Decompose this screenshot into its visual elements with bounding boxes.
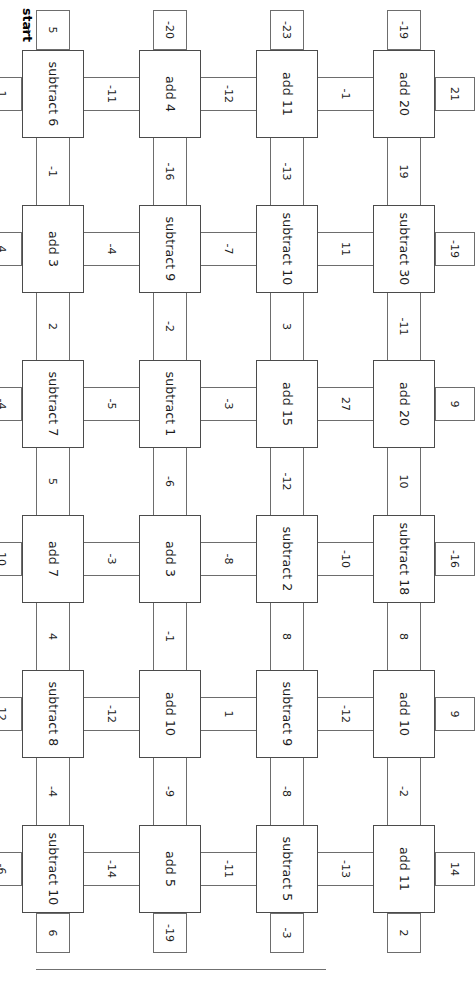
edge-value: -8 — [201, 542, 256, 576]
operation-node[interactable]: add 15 — [256, 360, 318, 448]
edge-value: 8 — [270, 603, 304, 670]
edge-value: -19 — [153, 913, 187, 953]
operation-node[interactable]: add 20 — [373, 360, 435, 448]
edge-value: -19 — [387, 10, 421, 50]
start-arrow-icon: → — [22, 24, 35, 33]
edge-value: -20 — [153, 10, 187, 50]
edge-value: -4 — [84, 232, 139, 266]
operation-node[interactable]: add 7 — [22, 515, 84, 603]
diagram-viewport: add 20add 11add 4subtract 6subtract 30su… — [0, 0, 476, 991]
edge-value: 1 — [201, 697, 256, 731]
edge-value: -6 — [153, 448, 187, 515]
operation-node[interactable]: add 11 — [373, 825, 435, 913]
edge-value: -2 — [387, 758, 421, 825]
operation-node[interactable]: subtract 8 — [22, 670, 84, 758]
edge-value: -11 — [201, 852, 256, 886]
edge-value: -3 — [84, 542, 139, 576]
edge-value: -1 — [36, 138, 70, 205]
operation-node[interactable]: add 3 — [139, 515, 201, 603]
operation-node[interactable]: subtract 9 — [139, 205, 201, 293]
edge-value: 21 — [435, 77, 475, 111]
edge-value: -12 — [201, 77, 256, 111]
edge-value: -12 — [318, 697, 373, 731]
edge-value: -4 — [36, 758, 70, 825]
edge-value: -10 — [318, 542, 373, 576]
edge-value: 11 — [318, 232, 373, 266]
edge-value: -11 — [84, 77, 139, 111]
operation-node[interactable]: subtract 10 — [256, 205, 318, 293]
edge-value: 4 — [36, 603, 70, 670]
edge-value: -5 — [84, 387, 139, 421]
edge-value: 19 — [387, 138, 421, 205]
footer-rule — [36, 969, 326, 970]
operation-node[interactable]: add 20 — [373, 50, 435, 138]
edge-value: -3 — [270, 913, 304, 953]
operation-node[interactable]: add 10 — [373, 670, 435, 758]
edge-value: -9 — [153, 758, 187, 825]
edge-value: 9 — [435, 697, 475, 731]
edge-value: -13 — [270, 138, 304, 205]
edge-value: -1 — [153, 603, 187, 670]
operation-node[interactable]: add 5 — [139, 825, 201, 913]
operation-node[interactable]: subtract 30 — [373, 205, 435, 293]
operation-node[interactable]: add 3 — [22, 205, 84, 293]
edge-value: 2 — [387, 913, 421, 953]
operation-node[interactable]: subtract 7 — [22, 360, 84, 448]
operation-node[interactable]: subtract 2 — [256, 515, 318, 603]
edge-value: -3 — [201, 387, 256, 421]
edge-value: -12 — [270, 448, 304, 515]
operation-node[interactable]: subtract 6 — [22, 50, 84, 138]
operation-node[interactable]: subtract 5 — [256, 825, 318, 913]
edge-value: 27 — [318, 387, 373, 421]
edge-value: 1 — [0, 77, 22, 111]
edge-value: -23 — [270, 10, 304, 50]
flowchart-canvas: add 20add 11add 4subtract 6subtract 30su… — [0, 0, 476, 991]
edge-value: 9 — [435, 387, 475, 421]
edge-value: -1 — [318, 77, 373, 111]
edge-value: -11 — [387, 293, 421, 360]
edge-value: 4 — [0, 232, 22, 266]
edge-value: 8 — [387, 603, 421, 670]
operation-node[interactable]: add 11 — [256, 50, 318, 138]
operation-node[interactable]: subtract 10 — [22, 825, 84, 913]
edge-value: 6 — [36, 913, 70, 953]
edge-value: -6 — [0, 852, 22, 886]
edge-value: 5 — [36, 10, 70, 50]
edge-value: -13 — [318, 852, 373, 886]
edge-value: 10 — [0, 542, 22, 576]
edge-value: 10 — [387, 448, 421, 515]
edge-value: 12 — [0, 697, 22, 731]
edge-value: 14 — [435, 852, 475, 886]
edge-value: 3 — [270, 293, 304, 360]
edge-value: -7 — [201, 232, 256, 266]
operation-node[interactable]: add 10 — [139, 670, 201, 758]
edge-value: -4 — [0, 387, 22, 421]
operation-node[interactable]: subtract 1 — [139, 360, 201, 448]
edge-value: 2 — [36, 293, 70, 360]
edge-value: -8 — [270, 758, 304, 825]
edge-value: 5 — [36, 448, 70, 515]
edge-value: -14 — [84, 852, 139, 886]
edge-value: -16 — [435, 542, 475, 576]
edge-value: -16 — [153, 138, 187, 205]
operation-node[interactable]: subtract 9 — [256, 670, 318, 758]
edge-value: -19 — [435, 232, 475, 266]
operation-node[interactable]: add 4 — [139, 50, 201, 138]
edge-value: -2 — [153, 293, 187, 360]
edge-value: -12 — [84, 697, 139, 731]
operation-node[interactable]: subtract 18 — [373, 515, 435, 603]
